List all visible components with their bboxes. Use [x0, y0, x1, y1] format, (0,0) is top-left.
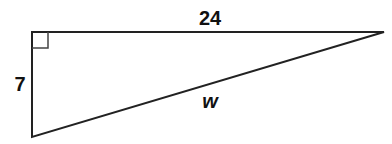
triangle-diagram: 24 7 w: [0, 0, 392, 144]
left-side-label: 7: [14, 73, 25, 95]
right-triangle: [32, 32, 384, 137]
top-side-label: 24: [199, 7, 222, 29]
right-angle-marker: [32, 32, 48, 48]
hypotenuse-label: w: [202, 90, 219, 112]
